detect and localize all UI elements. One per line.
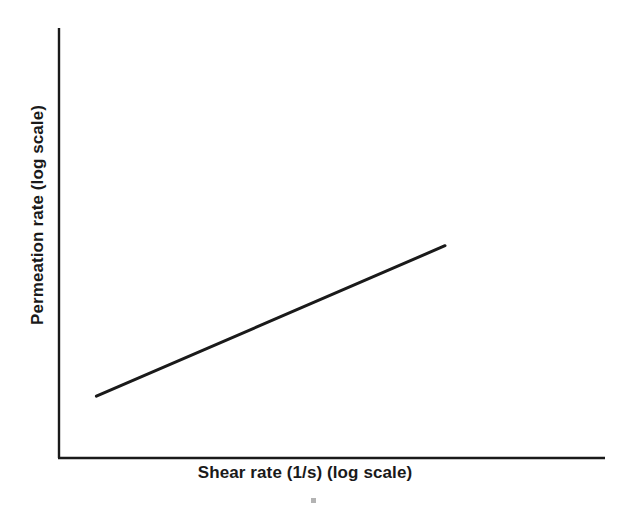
data-line-permeation-rate — [96, 246, 445, 397]
scan-speck-artifact — [311, 498, 316, 503]
y-axis-label: Permeation rate (log scale) — [28, 105, 48, 325]
chart-figure: Shear rate (1/s) (log scale) Permeation … — [0, 0, 627, 505]
plot-area — [0, 0, 627, 505]
x-axis-label: Shear rate (1/s) (log scale) — [0, 463, 610, 483]
